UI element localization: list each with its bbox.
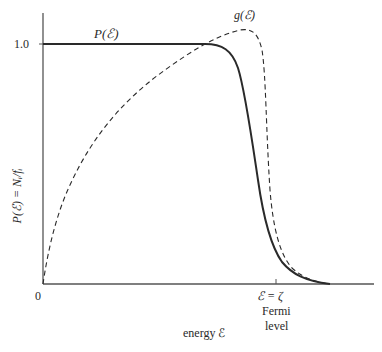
y-axis-title: P(ℰ) = Nᵢ/fᵢ [10, 169, 25, 224]
g-curve [43, 30, 330, 284]
g-curve-label: g(ℰ) [234, 9, 255, 21]
y-tick-label-1: 1.0 [14, 38, 29, 50]
x-axis-title: energy ℰ [183, 327, 225, 339]
p-curve-label: P(ℰ) [94, 27, 119, 40]
fermi-label: Fermi [262, 305, 291, 317]
level-label: level [265, 320, 288, 332]
p-curve [43, 44, 330, 284]
origin-label: 0 [35, 290, 41, 302]
fermi-equation-label: ℰ = ζ [257, 290, 283, 302]
plot-area [0, 0, 382, 352]
